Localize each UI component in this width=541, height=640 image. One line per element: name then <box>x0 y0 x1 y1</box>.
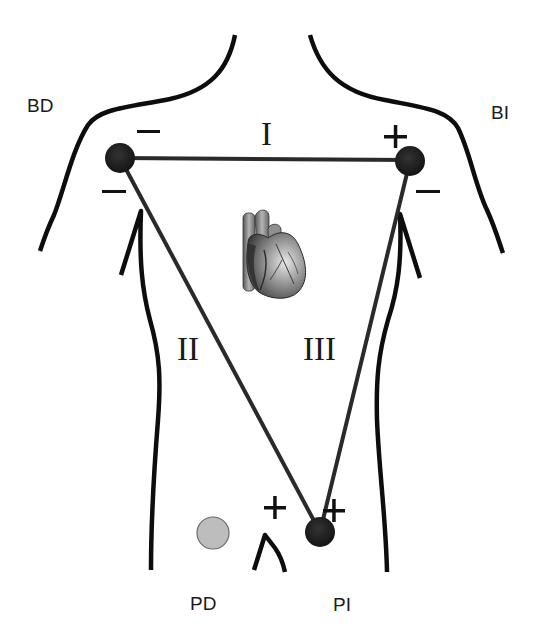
einthoven-diagram <box>0 0 541 640</box>
electrode-left-leg <box>305 517 335 547</box>
lead-1-line <box>120 158 410 160</box>
lead-2-line <box>120 158 320 532</box>
electrode-right-arm <box>105 143 135 173</box>
la-lead3-minus-icon <box>416 190 440 193</box>
electrode-right-leg-ground <box>197 517 229 549</box>
label-lead-1: I <box>261 118 272 151</box>
heart-icon <box>243 210 306 298</box>
label-left-arm: BI <box>491 103 509 122</box>
ra-lead1-minus-icon <box>137 130 160 133</box>
label-lead-2: II <box>177 333 199 366</box>
electrode-left-arm <box>395 146 425 176</box>
ra-lead2-minus-icon <box>102 190 126 193</box>
label-lead-3: III <box>303 333 336 366</box>
label-right-leg: PD <box>190 594 216 613</box>
la-lead1-plus-icon <box>384 125 407 148</box>
right-shoulder-outline <box>310 35 503 253</box>
label-right-arm: BD <box>27 96 53 115</box>
ll-lead2-plus-icon <box>264 496 286 519</box>
left-torso-outline <box>121 211 159 570</box>
navel-mark <box>254 535 285 572</box>
label-left-leg: PI <box>333 595 351 614</box>
